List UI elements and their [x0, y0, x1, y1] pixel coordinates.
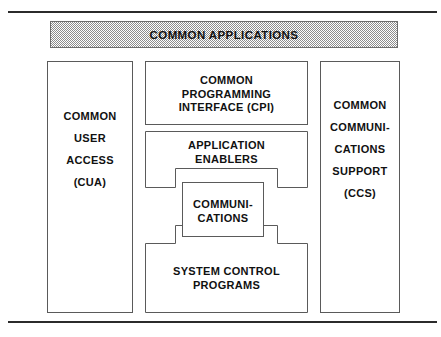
ccs-line-1: COMMON: [321, 94, 399, 116]
common-user-access-text: COMMON USER ACCESS (CUA): [48, 105, 132, 193]
saa-architecture-diagram: COMMON APPLICATIONS COMMON USER ACCESS (…: [0, 0, 441, 337]
cpi-line-3: INTERFACE (CPI): [146, 101, 307, 115]
cua-line-2: USER: [48, 127, 132, 149]
common-user-access-box: COMMON USER ACCESS (CUA): [47, 61, 133, 313]
common-programming-interface-text: COMMON PROGRAMMING INTERFACE (CPI): [146, 74, 307, 115]
scp-line-2: PROGRAMS: [145, 279, 308, 293]
common-applications-label: COMMON APPLICATIONS: [150, 29, 299, 41]
ccs-line-4: SUPPORT: [321, 160, 399, 182]
common-communications-support-box: COMMON COMMUNI- CATIONS SUPPORT (CCS): [320, 61, 400, 313]
cpi-line-2: PROGRAMMING: [146, 88, 307, 102]
common-communications-support-text: COMMON COMMUNI- CATIONS SUPPORT (CCS): [321, 94, 399, 204]
ccs-line-5: (CCS): [321, 182, 399, 204]
communications-box: COMMUNI- CATIONS: [182, 182, 264, 237]
cua-line-1: COMMON: [48, 105, 132, 127]
ccs-line-3: CATIONS: [321, 138, 399, 160]
ccs-line-2: COMMUNI-: [321, 116, 399, 138]
top-rule: [8, 11, 437, 13]
comms-line-2: CATIONS: [183, 212, 263, 226]
common-programming-interface-box: COMMON PROGRAMMING INTERFACE (CPI): [145, 61, 308, 125]
cua-line-4: (CUA): [48, 171, 132, 193]
application-enablers-text: APPLICATION ENABLERS: [145, 139, 308, 166]
common-applications-banner: COMMON APPLICATIONS: [50, 21, 398, 48]
cua-line-3: ACCESS: [48, 149, 132, 171]
enablers-line-1: APPLICATION: [145, 139, 308, 153]
bottom-rule: [8, 321, 437, 323]
system-control-programs-text: SYSTEM CONTROL PROGRAMS: [145, 265, 308, 292]
comms-line-1: COMMUNI-: [183, 198, 263, 212]
enablers-line-2: ENABLERS: [145, 153, 308, 167]
scp-line-1: SYSTEM CONTROL: [145, 265, 308, 279]
cpi-line-1: COMMON: [146, 74, 307, 88]
communications-text: COMMUNI- CATIONS: [183, 198, 263, 225]
